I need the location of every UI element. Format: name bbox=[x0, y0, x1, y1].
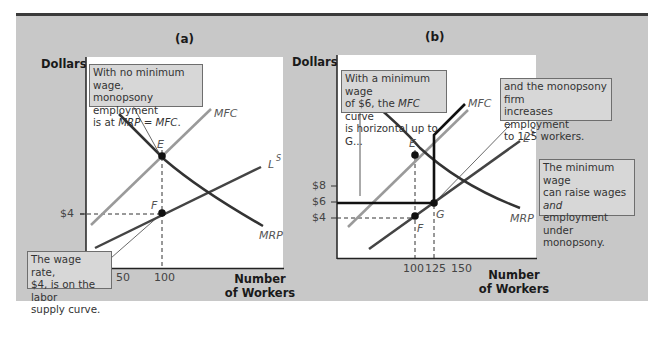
callout-line: With a minimum wage bbox=[345, 72, 443, 97]
callout-text: can raise wages bbox=[543, 186, 626, 198]
callout-line: to 125 workers. bbox=[504, 130, 608, 143]
panel-b-point-f-label: F bbox=[417, 222, 424, 235]
callout-line: increases employment bbox=[504, 105, 608, 130]
panel-b-callout-employment: and the monopsony firm increases employm… bbox=[500, 78, 612, 121]
callout-line: of $6, the MFC curve bbox=[345, 97, 443, 122]
panel-b-point-g-label: G bbox=[436, 208, 445, 221]
callout-line: The minimum wage bbox=[543, 161, 631, 186]
callout-text: of $6, the bbox=[345, 97, 398, 109]
callout-line: and the monopsony firm bbox=[504, 80, 608, 105]
panel-b-mrp-label: MRP bbox=[510, 212, 534, 225]
panel-b-x-tick-150: 150 bbox=[451, 262, 472, 275]
callout-line: monopsony. bbox=[543, 236, 631, 249]
callout-italic-text: MFC bbox=[398, 97, 420, 109]
panel-b-callout-conclusion: The minimum wage can raise wages and emp… bbox=[539, 159, 635, 216]
panel-b-x-tick-125: 125 bbox=[425, 262, 446, 275]
panel-b-x-tick-100: 100 bbox=[403, 262, 424, 275]
panel-b-x-axis-label: Number of Workers bbox=[484, 268, 544, 296]
panel-b-callout-min-wage: With a minimum wage of $6, the MFC curve… bbox=[341, 70, 447, 113]
callout-line: is horizontal up to G... bbox=[345, 122, 443, 147]
callout-line: can raise wages and bbox=[543, 186, 631, 211]
panel-b-y-tick-6: $6 bbox=[312, 195, 326, 208]
callout-text: curve bbox=[345, 110, 374, 122]
callout-italic-text: and bbox=[543, 199, 562, 211]
panel-b-x-axis-label-line2: of Workers bbox=[474, 282, 554, 296]
panel-b-x-axis-label-line1: Number bbox=[484, 268, 544, 282]
panel-b-y-tick-8: $8 bbox=[312, 179, 326, 192]
panel-b-mfc-label: MFC bbox=[468, 97, 492, 110]
panel-b-y-tick-4: $4 bbox=[312, 211, 326, 224]
callout-line: employment under bbox=[543, 211, 631, 236]
